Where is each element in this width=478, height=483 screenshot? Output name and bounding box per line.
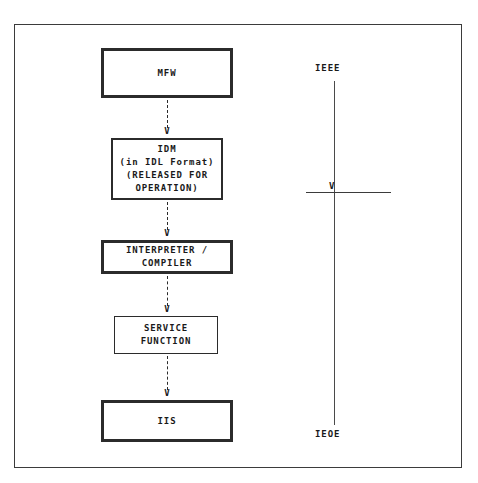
arrow-stem bbox=[167, 202, 168, 230]
arrow-mfw-to-idm: V bbox=[160, 100, 174, 136]
timeline-vertical-line bbox=[334, 81, 335, 425]
arrow-stem bbox=[167, 100, 168, 128]
arrowhead-down-icon: V bbox=[164, 389, 169, 398]
node-iis-label: IIS bbox=[158, 415, 177, 428]
node-service-function-label: SERVICE FUNCTION bbox=[141, 322, 192, 348]
arrowhead-down-icon: V bbox=[164, 305, 169, 314]
node-iis[interactable]: IIS bbox=[101, 400, 233, 442]
timeline-top-label: IEEE bbox=[315, 63, 340, 73]
arrow-stem bbox=[167, 356, 168, 390]
node-mfw-label: MFW bbox=[158, 67, 177, 80]
arrowhead-down-icon: V bbox=[329, 182, 334, 191]
node-idm[interactable]: IDM (in IDL Format) (RELEASED FOR OPERAT… bbox=[111, 138, 223, 200]
arrow-stem bbox=[167, 276, 168, 306]
arrow-service-to-iis: V bbox=[160, 356, 174, 398]
node-mfw[interactable]: MFW bbox=[101, 48, 233, 98]
timeline-axis: IEEE V IEOE bbox=[333, 63, 389, 443]
node-interpreter-compiler[interactable]: INTERPRETER / COMPILER bbox=[101, 240, 233, 274]
arrowhead-down-icon: V bbox=[164, 127, 169, 136]
timeline-crossing-marker: V bbox=[306, 183, 391, 197]
timeline-crossbar bbox=[306, 192, 391, 193]
timeline-bottom-label: IEOE bbox=[315, 429, 340, 439]
diagram-frame: MFW V IDM (in IDL Format) (RELEASED FOR … bbox=[14, 24, 462, 468]
node-service-function[interactable]: SERVICE FUNCTION bbox=[114, 316, 218, 354]
arrowhead-down-icon: V bbox=[164, 229, 169, 238]
arrow-interpreter-to-service: V bbox=[160, 276, 174, 314]
node-interpreter-compiler-label: INTERPRETER / COMPILER bbox=[126, 244, 208, 270]
node-idm-label: IDM (in IDL Format) (RELEASED FOR OPERAT… bbox=[120, 143, 215, 195]
arrow-idm-to-interpreter: V bbox=[160, 202, 174, 238]
